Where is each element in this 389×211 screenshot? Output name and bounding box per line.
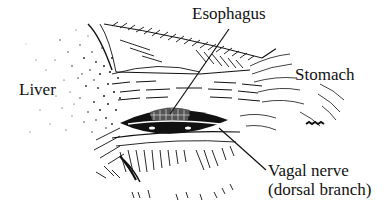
anatomical-diagram: Esophagus Liver Stomach Vagal nerve (dor… [0,0,389,211]
label-stomach: Stomach [295,66,355,84]
incision [120,107,228,133]
esophagus-leader-line [170,29,229,114]
suture-mark [306,122,324,124]
label-vagal-nerve-line1: Vagal nerve [268,161,371,180]
label-vagal-nerve-line2: (dorsal branch) [268,180,371,199]
vagal-nerve-leader-line [219,128,266,170]
middle-strokes [112,81,262,101]
label-liver: Liver [19,81,56,99]
upper-fold [88,22,276,74]
label-esophagus: Esophagus [192,5,266,23]
label-vagal-nerve: Vagal nerve (dorsal branch) [268,161,371,199]
lower-fold [94,128,240,200]
